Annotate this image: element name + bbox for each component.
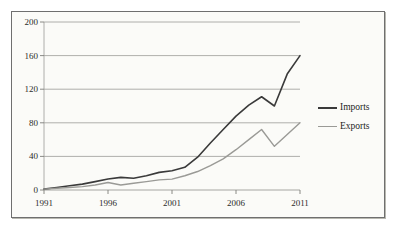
legend-item-exports[interactable]: Exports	[318, 117, 380, 136]
legend-swatch-exports-icon	[318, 126, 337, 127]
legend-item-imports[interactable]: Imports	[318, 98, 380, 117]
y-tick-label-0: 0	[12, 185, 38, 195]
x-tick-label-2011: 2011	[280, 198, 320, 208]
y-tick-label-200: 200	[12, 17, 38, 27]
legend-label: Exports	[340, 121, 370, 132]
series-line-exports	[44, 123, 300, 189]
y-tick-label-160: 160	[12, 51, 38, 61]
series-lines	[44, 56, 300, 190]
axis-tickmarks	[40, 22, 300, 194]
y-tick-label-120: 120	[12, 84, 38, 94]
legend-swatch-imports-icon	[318, 107, 337, 109]
gridlines	[44, 22, 300, 156]
x-tick-label-1996: 1996	[88, 198, 128, 208]
x-tick-label-2001: 2001	[152, 198, 192, 208]
y-tick-label-40: 40	[12, 151, 38, 161]
x-tick-label-2006: 2006	[216, 198, 256, 208]
chart-legend: ImportsExports	[318, 98, 380, 136]
axis-lines	[44, 22, 300, 190]
chart-figure: 04080120160200 19911996200120062011 Impo…	[0, 0, 399, 230]
series-line-imports	[44, 56, 300, 190]
y-tick-label-80: 80	[12, 118, 38, 128]
x-tick-label-1991: 1991	[24, 198, 64, 208]
legend-label: Imports	[340, 102, 370, 113]
